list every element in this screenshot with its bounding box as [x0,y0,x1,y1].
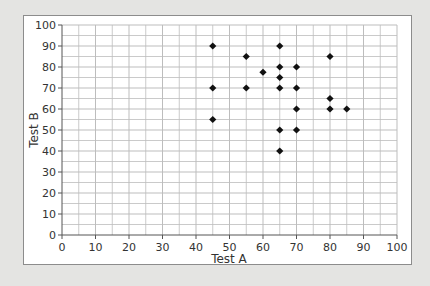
data-point-diamond-icon [276,74,283,81]
y-tick-label: 0 [49,229,56,242]
x-tick-label: 30 [156,241,170,254]
x-tick-label: 10 [89,241,103,254]
data-point-diamond-icon [276,126,283,133]
data-point-diamond-icon [293,126,300,133]
data-point-diamond-icon [209,116,216,123]
data-point-diamond-icon [276,63,283,70]
data-point-diamond-icon [343,105,350,112]
x-tick-label: 40 [189,241,203,254]
data-point-diamond-icon [293,84,300,91]
x-tick-label: 20 [122,241,136,254]
y-axis-title: Test B [27,112,41,149]
data-point-diamond-icon [209,84,216,91]
x-tick-label: 60 [256,241,270,254]
grid-lines [62,25,397,235]
data-point-diamond-icon [276,84,283,91]
y-tick-label: 100 [35,19,56,32]
x-tick-label: 100 [387,241,408,254]
data-point-diamond-icon [243,84,250,91]
y-tick-label: 20 [42,187,56,200]
y-tick-label: 40 [42,145,56,158]
data-point-diamond-icon [326,95,333,102]
x-tick-label: 80 [323,241,337,254]
y-tick-label: 50 [42,124,56,137]
y-tick-label: 10 [42,208,56,221]
scatter-chart: 0102030405060708090100 01020304050607080… [0,0,430,286]
x-tick-label: 70 [290,241,304,254]
data-point-diamond-icon [243,53,250,60]
data-point-diamond-icon [293,63,300,70]
data-point-diamond-icon [259,69,266,76]
y-tick-label: 70 [42,82,56,95]
y-tick-label: 60 [42,103,56,116]
y-tick-label: 90 [42,40,56,53]
data-point-diamond-icon [276,42,283,49]
x-axis-title: Test A [210,252,247,266]
y-tick-label: 80 [42,61,56,74]
x-tick-label: 0 [59,241,66,254]
x-tick-label: 90 [357,241,371,254]
data-point-diamond-icon [326,53,333,60]
data-point-diamond-icon [326,105,333,112]
data-point-diamond-icon [293,105,300,112]
y-tick-label: 30 [42,166,56,179]
data-point-diamond-icon [276,147,283,154]
data-point-diamond-icon [209,42,216,49]
